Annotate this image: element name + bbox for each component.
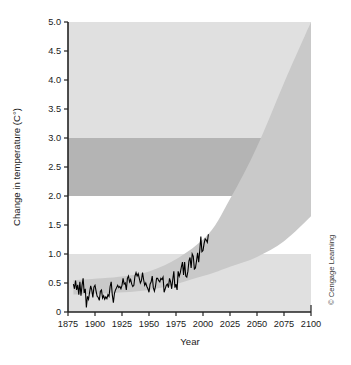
x-tick-label: 2100 bbox=[301, 319, 321, 329]
x-tick-label: 2050 bbox=[247, 319, 267, 329]
y-tick-label: 2.0 bbox=[48, 191, 61, 201]
y-tick-label: 4.5 bbox=[48, 46, 61, 56]
x-tick-label: 1925 bbox=[112, 319, 132, 329]
y-tick-label: 0.5 bbox=[48, 278, 61, 288]
y-tick-label: 3.0 bbox=[48, 133, 61, 143]
x-axis-title: Year bbox=[180, 336, 200, 347]
x-tick-label: 2075 bbox=[274, 319, 294, 329]
x-tick-label: 1900 bbox=[85, 319, 105, 329]
y-tick-label: 1.0 bbox=[48, 249, 61, 259]
x-tick-label: 2000 bbox=[193, 319, 213, 329]
y-tick-label: 4.0 bbox=[48, 75, 61, 85]
x-tick-label: 1875 bbox=[58, 319, 78, 329]
x-tick-label: 2025 bbox=[220, 319, 240, 329]
climate-projection-figure: 00.51.01.52.02.53.03.54.04.55.0 18751900… bbox=[0, 0, 351, 365]
y-tick-label: 2.5 bbox=[48, 162, 61, 172]
x-tick-label: 1950 bbox=[139, 319, 159, 329]
y-axis-title: Change in temperature (C°) bbox=[11, 108, 22, 226]
x-axis-ticks: 1875190019251950197520002025205020752100 bbox=[58, 312, 321, 329]
y-tick-label: 0 bbox=[56, 307, 61, 317]
x-tick-label: 1975 bbox=[166, 319, 186, 329]
credit-label: © Cengage Learning bbox=[327, 235, 336, 305]
chart-canvas: 00.51.01.52.02.53.03.54.04.55.0 18751900… bbox=[0, 0, 351, 365]
y-tick-label: 1.5 bbox=[48, 220, 61, 230]
y-tick-label: 5.0 bbox=[48, 17, 61, 27]
y-tick-label: 3.5 bbox=[48, 104, 61, 114]
y-axis-ticks: 00.51.01.52.02.53.03.54.04.55.0 bbox=[48, 17, 68, 317]
